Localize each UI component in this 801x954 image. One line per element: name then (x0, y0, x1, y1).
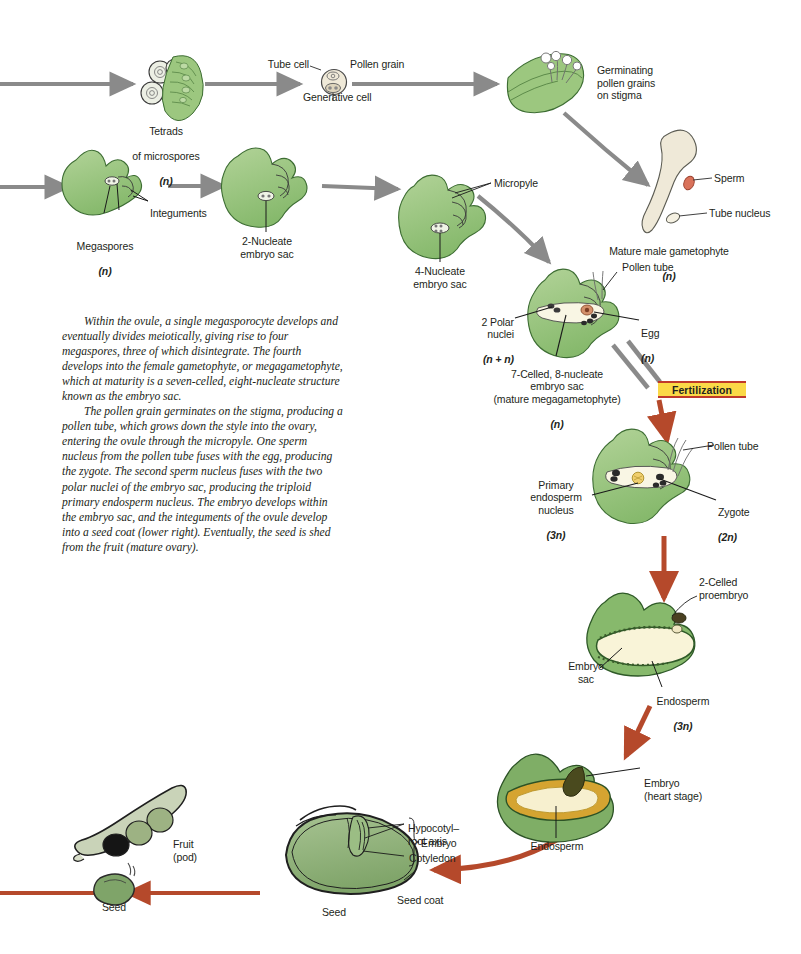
label-endosperm-3n: Endosperm (3n) (645, 682, 721, 732)
label-endosperm: Endosperm (524, 840, 590, 853)
germinating-pollen-on-stigma-illustration (507, 51, 583, 112)
fertilized-ovule-illustration (592, 429, 716, 523)
label-tetrads-of-microspores: Tetrads of microspores (n) (106, 112, 226, 187)
label-seed-coat: Seed coat (397, 894, 457, 907)
heart-stage-embryo-illustration (497, 754, 640, 842)
label-zygote-text: Zygote (718, 506, 750, 518)
label-four-nucleate-embryo-sac: 4-Nucleate embryo sac (397, 265, 483, 290)
label-embryo-sac: Embryo sac (560, 660, 612, 685)
label-seven-celled-ploidy: (n) (550, 418, 563, 430)
label-zygote-ploidy: (2n) (718, 531, 737, 543)
label-tube-nucleus: Tube nucleus (709, 207, 789, 220)
label-endosperm-3n-text: Endosperm (657, 695, 710, 707)
label-two-polar-nuclei-text: 2 Polarnuclei (481, 316, 514, 341)
label-two-celled-proembryo: 2-Celled proembryo (699, 576, 779, 601)
tetrads-of-microspores-illustration (141, 56, 203, 121)
label-megaspores-text: Megaspores (77, 240, 134, 252)
label-pollen-tube-upper: Pollen tube (622, 261, 692, 274)
label-integuments: Integuments (150, 207, 230, 220)
label-tetrads-line1: Tetrads (149, 125, 183, 137)
label-pollen-grain: Pollen grain (350, 58, 430, 71)
label-generative-cell: Generative cell (303, 91, 403, 104)
label-mature-male-gametophyte-text: Mature male gametophyte (609, 245, 729, 257)
figure-caption: Within the ovule, a single megasporocyte… (62, 314, 344, 555)
label-seven-celled-text: 7-Celled, 8-nucleate embryo sac (mature … (493, 368, 620, 405)
label-pollen-tube-lower: Pollen tube (707, 440, 777, 453)
four-nucleate-embryo-sac-illustration (399, 175, 491, 262)
label-embryo-heart-stage: Embryo (heart stage) (644, 777, 730, 802)
two-nucleate-embryo-sac-illustration (221, 148, 307, 232)
label-tube-cell: Tube cell (249, 58, 309, 71)
label-primary-endosperm-text: Primary endosperm nucleus (530, 479, 582, 516)
caption-paragraph-1: Within the ovule, a single megasporocyte… (62, 314, 344, 404)
label-zygote: Zygote (2n) (718, 493, 778, 543)
label-embryo-bracket: Embryo (421, 837, 477, 850)
fruit-pod-illustration (74, 785, 187, 876)
label-sperm: Sperm (714, 172, 774, 185)
fertilization-badge: Fertilization (658, 381, 746, 398)
label-cotyledon: Cotyledon (409, 852, 475, 865)
mature-male-gametophyte-illustration (642, 130, 712, 233)
label-megaspores-ploidy: (n) (98, 265, 111, 277)
label-megaspores: Megaspores (n) (62, 227, 148, 277)
label-micropyle: Micropyle (494, 177, 564, 190)
label-seed-left: Seed (92, 901, 136, 914)
caption-paragraph-2: The pollen grain germinates on the stigm… (62, 404, 344, 554)
label-two-nucleate-embryo-sac: 2-Nucleate embryo sac (224, 235, 310, 260)
label-germinating-pollen-grains: Germinating pollen grains on stigma (597, 64, 693, 102)
seed-illustration (286, 806, 419, 894)
label-tetrads-ploidy: (n) (159, 175, 172, 187)
label-egg: Egg (n) (641, 314, 691, 364)
label-fruit-pod: Fruit (pod) (173, 838, 225, 863)
label-primary-endosperm-ploidy: (3n) (547, 529, 566, 541)
seven-celled-embryo-sac-illustration (515, 269, 639, 357)
label-egg-text: Egg (641, 327, 659, 339)
label-tetrads-line2: of microspores (132, 150, 199, 162)
figure-canvas: Tube cell Pollen grain Generative cell T… (0, 0, 801, 954)
label-primary-endosperm-nucleus: Primary endosperm nucleus (3n) (517, 466, 595, 541)
label-seed-center: Seed (312, 906, 356, 919)
label-mature-male-gametophyte: Mature male gametophyte (n) (584, 232, 754, 282)
label-egg-ploidy: (n) (641, 352, 654, 364)
label-seven-celled-embryo-sac: 7-Celled, 8-nucleate embryo sac (mature … (478, 355, 636, 430)
label-endosperm-3n-ploidy: (3n) (674, 720, 693, 732)
